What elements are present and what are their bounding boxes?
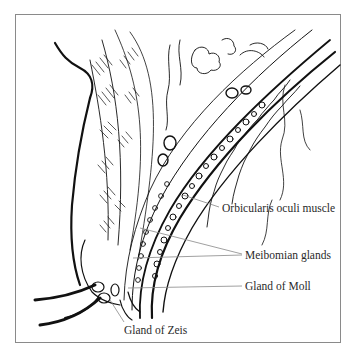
leader-zeis [110,300,124,322]
skin-outline [55,43,92,285]
conjunctiva [163,65,340,312]
tarsal-line-2 [152,52,335,318]
label-gland-of-zeis: Gland of Zeis [124,325,187,337]
label-orbicularis-oculi-muscle: Orbicularis oculi muscle [222,203,335,215]
eyelash-1 [35,285,95,300]
label-gland-of-moll: Gland of Moll [245,281,311,293]
tarsal-line-1 [140,40,330,318]
eyelash-3 [65,298,98,318]
leader-moll [128,286,242,288]
eyelash-2 [40,298,100,325]
eyelid-illustration [0,0,348,354]
label-meibomian-glands: Meibomian glands [245,250,331,262]
